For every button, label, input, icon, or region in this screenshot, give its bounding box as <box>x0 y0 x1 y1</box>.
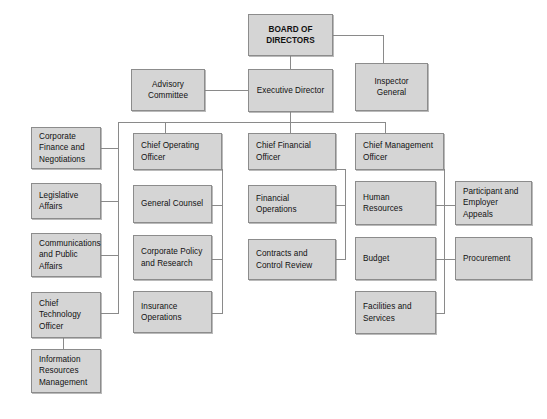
connector-coo-to-corporate-policy <box>212 259 223 260</box>
node-legislative-affairs[interactable]: Legislative Affairs <box>31 183 101 219</box>
node-label: Chief Technology Officer <box>39 298 93 333</box>
node-corporate-policy-and-research[interactable]: Corporate Policy and Research <box>133 235 212 280</box>
connector-spine-to-corporate-finance <box>101 148 119 149</box>
node-label: Chief Management Officer <box>363 140 436 163</box>
node-label: Facilities and Services <box>363 301 428 324</box>
connector-coo-to-insurance-operations <box>212 313 223 314</box>
connector-board-to-inspector-general-vertical <box>383 35 384 63</box>
connector-tier3-bus <box>118 122 385 123</box>
node-label: Inspector General <box>363 76 420 99</box>
node-label: Insurance Operations <box>141 301 204 324</box>
connector-bus-to-coo <box>165 122 166 133</box>
node-corporate-finance-and-negotiations[interactable]: Corporate Finance and Negotiations <box>31 127 101 169</box>
connector-cfo-spine <box>345 169 346 260</box>
node-label: Corporate Finance and Negotiations <box>39 131 93 166</box>
node-insurance-operations[interactable]: Insurance Operations <box>133 291 212 333</box>
node-label: General Counsel <box>141 198 204 210</box>
node-label: Chief Financial Officer <box>256 140 328 163</box>
connector-spine-to-chief-technology-officer <box>101 313 119 314</box>
node-executive-director[interactable]: Executive Director <box>248 69 333 112</box>
connector-bus-to-cmo <box>385 122 386 133</box>
connector-spine-to-communications <box>101 255 119 256</box>
connector-coo-spine <box>222 169 223 314</box>
connector-cfo-spine-top <box>336 169 346 170</box>
connector-cmo-spine <box>444 169 445 314</box>
node-board-of-directors[interactable]: BOARD OF DIRECTORS <box>248 14 333 56</box>
connector-spine-to-legislative-affairs <box>101 201 119 202</box>
node-label: Participant and Employer Appeals <box>463 186 524 221</box>
node-label: Advisory Committee <box>139 79 197 102</box>
node-contracts-and-control-review[interactable]: Contracts and Control Review <box>248 239 336 280</box>
connector-cmo-to-facilities-services <box>436 313 445 314</box>
node-label: Corporate Policy and Research <box>141 246 204 269</box>
node-label: BOARD OF DIRECTORS <box>256 24 325 47</box>
node-label: Executive Director <box>256 85 325 97</box>
node-label: Budget <box>363 253 428 265</box>
node-chief-technology-officer[interactable]: Chief Technology Officer <box>31 292 101 338</box>
node-label: Information Resources Management <box>39 354 93 389</box>
connector-bus-to-cfo <box>290 122 291 133</box>
node-facilities-and-services[interactable]: Facilities and Services <box>355 291 436 334</box>
connector-cfo-to-contracts-control <box>336 259 346 260</box>
node-label: Human Resources <box>363 192 428 215</box>
node-inspector-general[interactable]: Inspector General <box>355 63 428 111</box>
connector-coo-to-general-counsel <box>212 205 223 206</box>
node-information-resources-management[interactable]: Information Resources Management <box>31 349 101 393</box>
connector-board-to-inspector-general-horizontal <box>333 35 383 36</box>
node-general-counsel[interactable]: General Counsel <box>133 185 212 223</box>
connector-cto-to-information-resources <box>63 338 64 349</box>
node-communications-and-public-affairs[interactable]: Communications and Public Affairs <box>31 233 101 277</box>
node-label: Chief Operating Officer <box>141 140 214 163</box>
node-chief-operating-officer[interactable]: Chief Operating Officer <box>133 133 222 170</box>
connector-board-to-executive-director <box>290 56 291 69</box>
connector-cfo-to-financial-operations <box>336 205 346 206</box>
node-participant-and-employer-appeals[interactable]: Participant and Employer Appeals <box>455 181 532 225</box>
node-financial-operations[interactable]: Financial Operations <box>248 185 336 223</box>
connector-executive-director-drop <box>290 112 291 122</box>
node-procurement[interactable]: Procurement <box>455 237 532 280</box>
node-advisory-committee[interactable]: Advisory Committee <box>131 69 205 111</box>
node-chief-financial-officer[interactable]: Chief Financial Officer <box>248 133 336 170</box>
connector-advisory-to-executive-director <box>205 90 248 91</box>
org-chart: BOARD OF DIRECTORS Advisory Committee Ex… <box>0 0 547 419</box>
node-label: Legislative Affairs <box>39 190 93 213</box>
node-label: Communications and Public Affairs <box>39 238 93 273</box>
node-label: Contracts and Control Review <box>256 248 328 271</box>
connector-left-column-spine <box>118 122 119 313</box>
connector-to-procurement <box>444 259 455 260</box>
node-chief-management-officer[interactable]: Chief Management Officer <box>355 133 444 170</box>
node-label: Financial Operations <box>256 193 328 216</box>
node-label: Procurement <box>463 253 524 265</box>
connector-to-participant-appeals <box>444 205 455 206</box>
node-budget[interactable]: Budget <box>355 237 436 280</box>
node-human-resources[interactable]: Human Resources <box>355 181 436 225</box>
